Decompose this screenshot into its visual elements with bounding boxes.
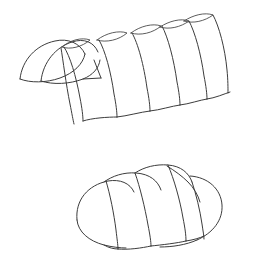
barrel-vault-fills	[21, 16, 228, 113]
barrel-vault-figure	[0, 0, 255, 140]
figure-sheet	[0, 0, 255, 272]
segmented-dome-figure	[0, 140, 255, 272]
